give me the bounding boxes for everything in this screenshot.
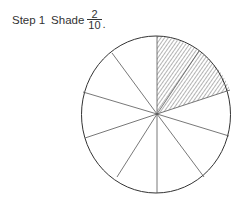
fraction-circle [0, 0, 247, 204]
